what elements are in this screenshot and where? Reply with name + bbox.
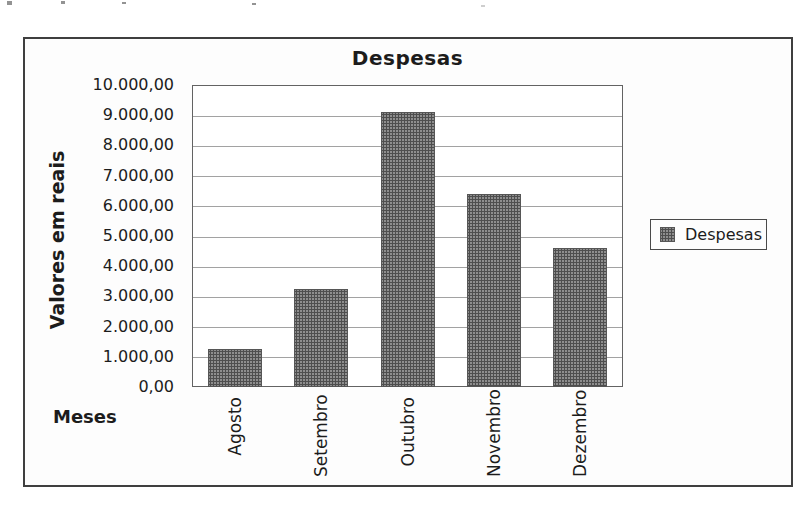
- y-tick-label: 2.000,00: [54, 317, 174, 337]
- bar-novembro: [467, 194, 521, 387]
- scan-artifact: [61, 1, 65, 4]
- scanned-chart-page: Despesas Valores em reais Meses Despesas…: [0, 0, 811, 511]
- y-tick-label: 4.000,00: [54, 256, 174, 276]
- y-tick-label: 0,00: [54, 377, 174, 397]
- chart-title: Despesas: [192, 46, 623, 70]
- x-category-label: Outubro: [398, 397, 418, 477]
- scan-artifact: [252, 3, 256, 5]
- x-category-label: Agosto: [225, 397, 245, 477]
- y-tick-label: 5.000,00: [54, 226, 174, 246]
- y-tick-label: 10.000,00: [54, 75, 174, 95]
- legend-label: Despesas: [685, 225, 762, 244]
- x-category-label: Setembro: [311, 397, 331, 477]
- bar-dezembro: [553, 248, 607, 387]
- bar-setembro: [294, 289, 348, 387]
- y-tick-label: 3.000,00: [54, 286, 174, 306]
- scan-artifact: [122, 2, 126, 4]
- y-tick-label: 9.000,00: [54, 105, 174, 125]
- bar-outubro: [381, 112, 435, 387]
- x-category-label: Dezembro: [570, 397, 590, 477]
- x-axis-title: Meses: [53, 406, 117, 427]
- scan-artifact: [481, 5, 485, 7]
- y-tick-label: 8.000,00: [54, 135, 174, 155]
- x-category-label: Novembro: [484, 397, 504, 477]
- legend: Despesas: [650, 219, 767, 250]
- y-tick-label: 1.000,00: [54, 347, 174, 367]
- y-tick-label: 7.000,00: [54, 166, 174, 186]
- bar-agosto: [208, 349, 262, 387]
- scan-artifact: [7, 1, 12, 5]
- y-tick-label: 6.000,00: [54, 196, 174, 216]
- legend-swatch-despesas: [660, 227, 675, 242]
